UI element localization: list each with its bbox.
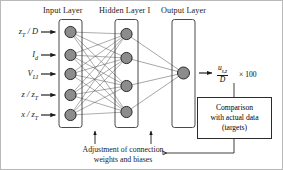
caption-line-1: Adjustment of connection <box>59 145 187 155</box>
input-label-sub: LI <box>33 73 38 79</box>
input-arrows <box>41 32 56 115</box>
input-label-sub: T <box>35 114 38 120</box>
hidden-layer-nodes <box>121 28 132 117</box>
hidden-layer-title: Hidden Layer I <box>99 7 150 15</box>
input-label-id: Id <box>7 51 38 61</box>
input-label-z-over-zt: z / zT <box>7 91 38 101</box>
output-layer-title: Output Layer <box>161 7 206 15</box>
comparison-line-3: (targets) <box>198 123 271 133</box>
input-hidden-connections <box>71 32 127 115</box>
hidden-output-connections <box>127 34 184 112</box>
neural-network-diagram: Input Layer Hidden Layer I Output Layer … <box>0 0 283 170</box>
fraction-numerator: us,z <box>217 64 228 76</box>
comparison-box-text: Comparison with actual data (targets) <box>198 103 271 132</box>
input-label-sub: d <box>35 54 38 60</box>
output-expression-multiplier: × 100 <box>239 70 257 79</box>
input-label-base: x / z <box>21 110 35 119</box>
input-label-zt-over-d: zT / D <box>7 28 38 38</box>
input-layer-title: Input Layer <box>43 7 83 15</box>
fraction-denominator: D <box>217 76 228 85</box>
comparison-line-2: with actual data <box>198 113 271 123</box>
numerator-subscript: s,z <box>222 68 227 74</box>
caption-line-2: weights and biases <box>59 155 187 165</box>
output-expression-fraction: us,z D <box>217 64 228 84</box>
input-label-sub: T <box>35 94 38 100</box>
adjustment-arrows <box>95 131 151 144</box>
input-label-x-over-zt: x / zT <box>7 111 38 121</box>
input-label-vli: VLI <box>7 70 38 80</box>
input-layer-nodes <box>65 26 76 120</box>
input-label-rest: / D <box>25 27 38 36</box>
comparison-line-1: Comparison <box>198 103 271 113</box>
input-label-base: z / z <box>22 90 35 99</box>
adjustment-caption: Adjustment of connection weights and bia… <box>59 145 187 165</box>
comparison-box: Comparison with actual data (targets) <box>197 97 272 139</box>
output-layer-nodes <box>178 67 190 79</box>
